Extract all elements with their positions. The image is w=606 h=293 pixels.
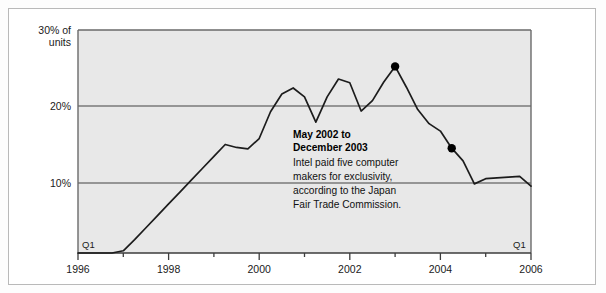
screenshot-root: 30% of units 20% 10% 1996 1998 2000 2002…: [0, 0, 606, 293]
chart-frame: 30% of units 20% 10% 1996 1998 2000 2002…: [8, 8, 596, 285]
share-of-units-line-chart: 30% of units 20% 10% 1996 1998 2000 2002…: [9, 9, 595, 284]
x-tick-label-1998: 1998: [157, 263, 181, 275]
annotation-heading-line1: May 2002 to: [293, 129, 351, 140]
x-tick-label-2000: 2000: [248, 263, 272, 275]
x-axis-left-q1-label: Q1: [82, 239, 95, 250]
annotation-body-line4: Fair Trade Commission.: [293, 199, 401, 210]
x-tick-label-2004: 2004: [429, 263, 453, 275]
annotation-body-line1: Intel paid five computer: [293, 157, 399, 168]
y-tick-label-20: 20%: [50, 100, 71, 112]
annotation-body-line2: makers for exclusivity,: [293, 171, 392, 182]
y-tick-label-30-line2: units: [49, 36, 71, 48]
x-tick-label-2002: 2002: [338, 263, 362, 275]
x-tick-label-1996: 1996: [66, 263, 90, 275]
annotation-heading-line2: December 2003: [293, 142, 368, 153]
decline-marker-dot: [448, 144, 456, 152]
annotation-body-line3: according to the Japan: [293, 185, 396, 196]
peak-marker-dot: [391, 62, 399, 70]
y-tick-label-30-line1: 30% of: [38, 24, 71, 36]
x-tick-label-2006: 2006: [519, 263, 543, 275]
y-tick-label-10: 10%: [50, 177, 71, 189]
x-axis-right-q1-label: Q1: [513, 239, 526, 250]
